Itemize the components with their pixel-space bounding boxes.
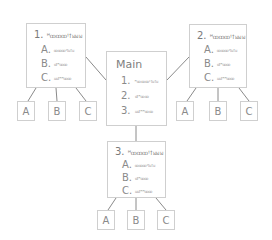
section-3-item-c: C.ꞟꞟꝉꟸꟸꝏꝏ — [122, 185, 152, 196]
item-letter: B. — [122, 172, 132, 183]
section-2-child-c: C — [240, 101, 258, 121]
section-2-number: 2. — [197, 30, 207, 41]
section-1-child-b: B — [48, 101, 66, 121]
section-3-item-a: A.ꝏꝏꝏꞋꝉꞟꝉꞟ — [122, 159, 154, 170]
main-item-1: 1.ꟸꝏꝏꝏꞋꝉꞟꝉꞟ — [121, 75, 158, 86]
item-text: ꞟꞟꝉꟸꟸꝏꝏ — [217, 76, 234, 81]
section-3-title-text: ꟸꝏꝏꝏꞋꝉꞟꞟꞟ — [128, 149, 164, 156]
section-2-item-a: A.ꝏꝏꝏꞋꝉꞟꝉꞟ — [204, 44, 236, 55]
item-text: ꝏꝏꝏꞋꝉꞟꝉꞟ — [217, 48, 237, 53]
item-text: ꭤꝉꟸꝏꝏ — [135, 94, 149, 99]
section-3-box: 3. ꟸꝏꝏꝏꞋꝉꞟꞟꞟ A.ꝏꝏꝏꞋꝉꞟꝉꞟ B.ꭤꝉꟸꝏꝏ C.ꞟꞟꝉꟸꟸꝏ… — [107, 141, 166, 198]
section-3-child-b: B — [127, 210, 145, 230]
section-2-child-a: A — [176, 101, 194, 121]
item-letter: C. — [122, 185, 132, 196]
section-2-item-b: B.ꭤꝉꟸꝏꝏ — [204, 58, 230, 69]
section-2-title-text: ꟸꝏꝏꝏꞋꝉꞟꞟꞟ — [210, 33, 246, 40]
item-letter: A. — [122, 159, 132, 170]
item-text: ꭤꝉꟸꝏꝏ — [54, 62, 67, 67]
section-2-box: 2. ꟸꝏꝏꝏꞋꝉꞟꞟꞟ A.ꝏꝏꝏꞋꝉꞟꝉꞟ B.ꭤꝉꟸꝏꝏ C.ꞟꞟꝉꟸꟸꝏ… — [189, 24, 247, 88]
item-number: 1. — [121, 75, 131, 86]
item-number: 2. — [121, 90, 131, 101]
item-text: ꞟꞟꝉꟸꟸꝏꝏ — [135, 189, 152, 194]
section-1-child-c: C — [79, 101, 97, 121]
section-1-child-a: A — [17, 101, 35, 121]
section-3-title: 3. ꟸꝏꝏꝏꞋꝉꞟꞟꞟ — [115, 146, 164, 157]
item-text: ꞟꞟꝉꟸꟸꝏꝏ — [54, 76, 71, 81]
section-1-item-b: B.ꭤꝉꟸꝏꝏ — [41, 58, 67, 69]
item-letter: B. — [41, 58, 51, 69]
section-2-item-c: C.ꞟꞟꝉꟸꟸꝏꝏ — [204, 72, 234, 83]
item-text: ꭤꝉꟸꝏꝏ — [217, 62, 230, 67]
section-3-child-a: A — [97, 210, 115, 230]
section-2-child-b: B — [209, 101, 227, 121]
section-1-title: 1. ꟸꝏꝏꝏꞋꝉꞟꞟꞟ — [34, 29, 83, 40]
section-2-title: 2. ꟸꝏꝏꝏꞋꝉꞟꞟꞟ — [197, 30, 246, 41]
item-text: ꞟꞟꝉꟸꟸꝏꝏ — [135, 109, 153, 114]
main-item-2: 2.ꭤꝉꟸꝏꝏ — [121, 90, 149, 101]
item-letter: A. — [41, 44, 51, 55]
item-text: ꟸꝏꝏꝏꞋꝉꞟꝉꞟ — [135, 79, 159, 84]
item-number: 3. — [121, 105, 131, 116]
section-3-item-b: B.ꭤꝉꟸꝏꝏ — [122, 172, 148, 183]
main-title: Main — [116, 58, 142, 71]
section-1-box: 1. ꟸꝏꝏꝏꞋꝉꞟꞟꞟ A.ꝏꝏꝏꞋꝉꞟꝉꞟ B.ꭤꝉꟸꝏꝏ C.ꞟꞟꝉꟸꟸꝏ… — [26, 23, 86, 88]
item-text: ꝏꝏꝏꞋꝉꞟꝉꞟ — [135, 163, 155, 168]
item-letter: B. — [204, 58, 214, 69]
main-item-3: 3.ꞟꞟꝉꟸꟸꝏꝏ — [121, 105, 153, 116]
section-1-item-c: C.ꞟꞟꝉꟸꟸꝏꝏ — [41, 72, 71, 83]
main-box: Main 1.ꟸꝏꝏꝏꞋꝉꞟꝉꞟ 2.ꭤꝉꟸꝏꝏ 3.ꞟꞟꝉꟸꟸꝏꝏ — [106, 51, 167, 126]
item-letter: C. — [41, 72, 51, 83]
item-letter: C. — [204, 72, 214, 83]
section-1-number: 1. — [34, 29, 44, 40]
item-text: ꭤꝉꟸꝏꝏ — [135, 176, 148, 181]
section-3-child-c: C — [157, 210, 175, 230]
item-text: ꝏꝏꝏꞋꝉꞟꝉꞟ — [54, 48, 74, 53]
item-letter: A. — [204, 44, 214, 55]
section-1-item-a: A.ꝏꝏꝏꞋꝉꞟꝉꞟ — [41, 44, 73, 55]
section-1-title-text: ꟸꝏꝏꝏꞋꝉꞟꞟꞟ — [47, 32, 83, 39]
section-3-number: 3. — [115, 146, 125, 157]
